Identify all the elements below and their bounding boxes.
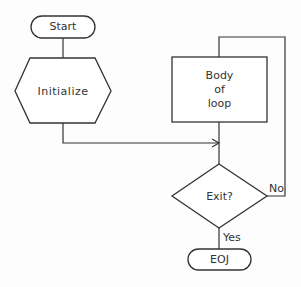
body-label-line2: of [172,83,267,96]
no-edge-label: No [269,182,284,195]
edge-init-exit [63,123,219,143]
start-label: Start [31,20,95,33]
flowchart-svg [0,0,301,287]
flowchart-canvas: Start Initialize Body of loop Exit? EOJ … [0,0,301,287]
initialize-label: Initialize [15,85,111,98]
body-label-line3: loop [172,97,267,110]
yes-edge-label: Yes [223,231,241,244]
eoj-label: EOJ [188,253,251,266]
exit-label: Exit? [172,190,267,203]
body-label-line1: Body [172,69,267,82]
